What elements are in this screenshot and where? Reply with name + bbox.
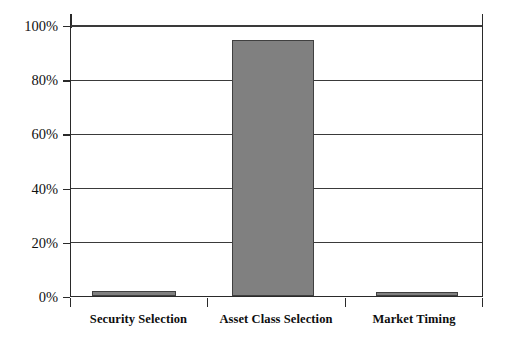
y-axis-tick-label-0: 0%: [6, 290, 58, 305]
y-tick-mark: [63, 134, 70, 135]
bar-security-selection: [92, 291, 176, 296]
x-axis-category-label-asset-class-selection: Asset Class Selection: [207, 312, 345, 327]
y-tick-mark: [63, 26, 70, 27]
bar-market-timing: [376, 292, 458, 296]
y-tick-mark: [63, 189, 70, 190]
bar-chart: 100% 80% 60% 40% 20% 0% Security Selecti…: [0, 0, 509, 353]
plot-area: [70, 26, 483, 297]
y-axis-tick-label-60: 60%: [6, 127, 58, 142]
y-tick-mark: [63, 297, 70, 298]
y-tick-mark: [63, 80, 70, 81]
x-tick-mark-2: [345, 298, 346, 307]
x-axis-category-label-security-selection: Security Selection: [70, 312, 207, 327]
x-axis-category-label-market-timing: Market Timing: [345, 312, 483, 327]
gridline-100: [71, 25, 482, 26]
y-axis-tick-label-80: 80%: [6, 73, 58, 88]
x-tick-mark-left: [70, 298, 71, 307]
x-tick-mark-1: [207, 298, 208, 307]
y-axis-tick-label-100: 100%: [6, 19, 58, 34]
x-tick-mark-right: [482, 298, 483, 307]
y-tick-mark: [63, 243, 70, 244]
bar-asset-class-selection: [232, 40, 314, 297]
y-axis-tick-label-20: 20%: [6, 236, 58, 251]
y-axis-tick-label-40: 40%: [6, 182, 58, 197]
